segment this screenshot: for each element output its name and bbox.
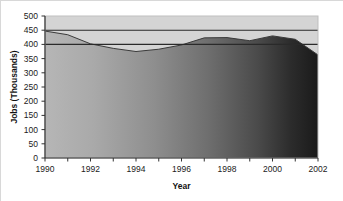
x-tick-label: 2002 xyxy=(309,164,328,174)
y-tick-label: 500 xyxy=(24,11,38,21)
y-tick-label: 350 xyxy=(24,54,38,64)
x-tick-label: 1998 xyxy=(218,164,237,174)
y-tick-label: 100 xyxy=(24,125,38,135)
x-tick-label: 1992 xyxy=(81,164,100,174)
y-tick-label: 450 xyxy=(24,25,38,35)
y-tick-label: 200 xyxy=(24,96,38,106)
y-tick-label: 0 xyxy=(33,153,38,163)
y-tick-label: 400 xyxy=(24,39,38,49)
area-fill xyxy=(45,31,318,158)
x-axis-title: Year xyxy=(173,181,192,191)
area-chart: 500 450 400 350 300 250 200 150 100 50 0 xyxy=(0,0,343,201)
x-tick-label: 2000 xyxy=(263,164,282,174)
y-tick-label: 50 xyxy=(29,139,39,149)
y-tick-label: 150 xyxy=(24,110,38,120)
x-tick-label: 1990 xyxy=(36,164,55,174)
y-tick-label: 250 xyxy=(24,82,38,92)
x-axis-tick-labels: 1990 1992 1994 1996 1998 2000 2002 xyxy=(36,164,328,174)
x-tick-label: 1994 xyxy=(127,164,146,174)
x-tick-label: 1996 xyxy=(172,164,191,174)
chart-figure: 500 450 400 350 300 250 200 150 100 50 0 xyxy=(0,0,343,201)
y-axis-tick-labels: 500 450 400 350 300 250 200 150 100 50 0 xyxy=(24,11,38,163)
y-axis-title: Jobs (Thousands) xyxy=(9,50,19,123)
area-series-group xyxy=(45,31,318,158)
y-tick-label: 300 xyxy=(24,68,38,78)
